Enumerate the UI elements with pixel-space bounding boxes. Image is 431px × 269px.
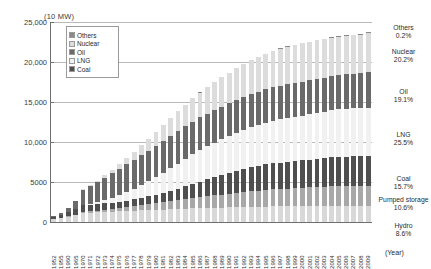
x-axis-tick-label: 1973 <box>102 224 108 269</box>
x-tick-wrap: 1975 <box>116 224 123 269</box>
callout-name: Pumped storage <box>376 196 431 204</box>
bar-segment-lng <box>132 189 137 199</box>
x-tick-wrap: 1970 <box>79 224 86 269</box>
bar-segment-lng <box>271 121 276 163</box>
callout-hydro: Hydro8.6% <box>376 222 431 239</box>
bar-segment-pumped-storage <box>329 186 334 206</box>
bar-segment-lng <box>307 114 312 159</box>
callout-coal: Coal15.7% <box>376 175 431 192</box>
y-axis-tick-mark <box>50 142 54 143</box>
callout-nuclear: Nuclear20.2% <box>376 48 431 65</box>
bar-segment-pumped-storage <box>234 193 239 208</box>
callout-percent: 20.2% <box>376 56 431 64</box>
bar-segment-oil <box>183 126 188 158</box>
bar-column <box>204 22 211 222</box>
bar-segment-oil <box>168 136 173 168</box>
bar-segment-lng <box>198 150 203 181</box>
bar-segment-lng <box>241 130 246 169</box>
bar-segment-coal <box>205 179 210 196</box>
bar-segment-oil <box>278 86 283 120</box>
bar-segment-oil <box>300 82 305 116</box>
bar-segment-lng <box>219 139 224 175</box>
bar-segment-oil <box>81 190 86 205</box>
bar-segment-oil <box>95 182 100 202</box>
bar-segment-lng <box>146 181 151 196</box>
bar-segment-oil <box>351 74 356 108</box>
callout-name: Others <box>376 24 431 32</box>
bar-segment-pumped-storage <box>212 195 217 207</box>
bar-segment-hydro <box>95 212 100 222</box>
bar-segment-lng <box>285 118 290 162</box>
x-axis-tick-label: 1979 <box>146 224 152 269</box>
callout-name: Nuclear <box>376 48 431 56</box>
bar-column <box>291 22 298 222</box>
stacked-bar <box>358 34 363 222</box>
bar-segment-oil <box>344 74 349 108</box>
x-axis-tick-label: 1985 <box>190 224 196 269</box>
bar-segment-nuclear <box>241 64 246 97</box>
x-tick-wrap: 2005 <box>335 224 342 269</box>
bar-segment-coal <box>154 195 159 203</box>
stacked-bar <box>81 189 86 222</box>
callout-oil: Oil19.1% <box>376 88 431 105</box>
x-tick-wrap: 2009 <box>364 224 371 269</box>
bar-segment-nuclear <box>307 42 312 80</box>
bar-column <box>328 22 335 222</box>
bar-column <box>262 22 269 222</box>
bar-segment-hydro <box>285 206 290 222</box>
x-tick-wrap: 2007 <box>350 224 357 269</box>
x-axis-tick-label: 1988 <box>212 224 218 269</box>
bar-segment-pumped-storage <box>219 195 224 208</box>
bar-segment-coal <box>322 158 327 187</box>
bar-segment-lng <box>329 110 334 157</box>
bar-column <box>277 22 284 222</box>
bar-segment-nuclear <box>271 51 276 87</box>
bar-segment-lng <box>322 112 327 159</box>
bar-segment-coal <box>351 156 356 186</box>
bar-column <box>130 22 137 222</box>
x-tick-wrap: 1982 <box>167 224 174 269</box>
bar-segment-oil <box>176 131 181 163</box>
bar-segment-nuclear <box>285 47 290 85</box>
stacked-bar <box>285 46 290 222</box>
bar-column <box>182 22 189 222</box>
stacked-bar <box>329 37 334 222</box>
legend-swatch-icon <box>69 49 75 55</box>
stacked-bar <box>351 35 356 222</box>
bar-segment-coal <box>190 184 195 198</box>
x-axis-tick-label: 1971 <box>87 224 93 269</box>
bar-column <box>306 22 313 222</box>
bar-segment-hydro <box>271 206 276 222</box>
bar-segment-pumped-storage <box>278 189 283 206</box>
bar-segment-nuclear <box>278 49 283 86</box>
x-tick-wrap: 1999 <box>291 224 298 269</box>
x-axis-tick-label: 2008 <box>358 224 364 269</box>
x-tick-wrap: 2006 <box>343 224 350 269</box>
x-axis-tick-label: 1976 <box>124 224 130 269</box>
bar-segment-hydro <box>59 218 64 222</box>
stacked-bar <box>219 77 224 222</box>
bar-segment-nuclear <box>168 118 173 136</box>
bar-segment-hydro <box>168 209 173 222</box>
y-axis-unit-label: (10 MW) <box>44 12 74 21</box>
bar-segment-nuclear <box>293 45 298 83</box>
bar-segment-oil <box>88 186 93 203</box>
bar-segment-oil <box>227 103 232 136</box>
bar-segment-coal <box>300 160 305 187</box>
callout-name: LNG <box>376 131 431 139</box>
bar-segment-hydro <box>146 210 151 222</box>
stacked-bar <box>183 105 188 222</box>
bar-segment-coal <box>183 186 188 199</box>
bar-segment-pumped-storage <box>249 191 254 207</box>
bar-segment-hydro <box>241 207 246 222</box>
bar-segment-nuclear <box>256 57 261 92</box>
bar-segment-pumped-storage <box>358 186 363 206</box>
x-axis-tick-label: 1952 <box>51 224 57 269</box>
bar-segment-coal <box>168 191 173 201</box>
bar-segment-coal <box>329 157 334 186</box>
bar-segment-oil <box>315 79 320 113</box>
x-tick-wrap: 1993 <box>247 224 254 269</box>
legend-swatch-icon <box>69 32 75 38</box>
callout-name: Oil <box>376 88 431 96</box>
y-axis-tick-mark <box>50 182 54 183</box>
